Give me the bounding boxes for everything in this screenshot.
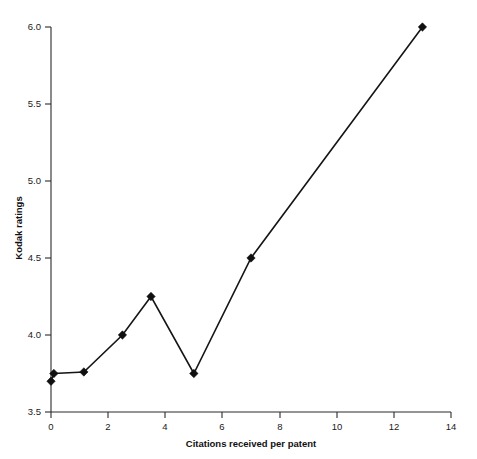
y-tick-label-2: 4.5 bbox=[28, 252, 41, 263]
y-tick-label-4: 5.5 bbox=[28, 98, 41, 109]
y-tick-label-3: 5.0 bbox=[28, 175, 41, 186]
x-tick-label-7: 14 bbox=[446, 421, 457, 432]
x-axis-title: Citations received per patent bbox=[186, 438, 317, 449]
y-tick-label-0: 3.5 bbox=[28, 406, 41, 417]
x-tick-label-3: 6 bbox=[219, 421, 224, 432]
y-tick-label-1: 4.0 bbox=[28, 329, 41, 340]
x-tick-label-2: 4 bbox=[162, 421, 167, 432]
x-tick-label-5: 10 bbox=[332, 421, 343, 432]
x-tick-label-4: 8 bbox=[277, 421, 282, 432]
x-tick-label-0: 0 bbox=[48, 421, 53, 432]
y-axis-title: Kodak ratings bbox=[13, 196, 24, 259]
x-tick-label-1: 2 bbox=[105, 421, 110, 432]
line-chart-figure: 3.5 4.0 4.5 5.0 5.5 6.0 0 2 4 6 8 10 12 … bbox=[0, 0, 477, 459]
chart-background bbox=[0, 0, 477, 459]
x-tick-label-6: 12 bbox=[389, 421, 400, 432]
y-tick-label-5: 6.0 bbox=[28, 21, 41, 32]
